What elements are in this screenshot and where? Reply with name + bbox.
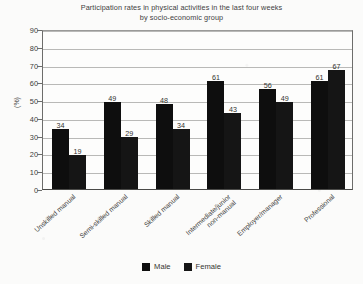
gridline (43, 67, 352, 68)
bar-female (276, 102, 293, 189)
y-axis-tick-label: 80 (14, 44, 38, 53)
gridline (43, 138, 352, 139)
bar-value-label: 48 (152, 96, 177, 105)
bar-male (52, 129, 69, 189)
bar-female (69, 155, 86, 189)
chart-title: Participation rates in physical activiti… (0, 3, 363, 22)
x-axis-category-label-line: Professional (303, 193, 336, 224)
x-axis-category-label: Intermediate/juniornon-manual (185, 193, 238, 243)
legend-label: Male (154, 262, 170, 271)
x-axis-category-label-line: Unskilled manual (33, 193, 77, 233)
plot-area: 341949294834614356496167 (42, 30, 353, 190)
x-axis-category-label-line: Employer/manager (236, 193, 284, 237)
y-axis-tick-mark (37, 190, 42, 191)
bar-value-label: 34 (48, 121, 73, 130)
gridline (43, 31, 352, 32)
bar-male (156, 104, 173, 189)
legend-item: Male (142, 262, 170, 271)
bar-value-label: 67 (324, 62, 349, 71)
gridline (43, 120, 352, 121)
bar-male (104, 102, 121, 189)
bar-value-label: 49 (100, 94, 125, 103)
bar-value-label: 61 (203, 73, 228, 82)
x-axis-category-label: Professional (303, 193, 337, 224)
x-axis-category-label: Unskilled manual (33, 193, 77, 234)
gridline (43, 173, 352, 174)
x-axis-category-label: Semi-skilled manual (78, 193, 129, 240)
chart-legend: MaleFemale (0, 262, 363, 271)
bar-male (207, 81, 224, 189)
chart-title-line-1: Participation rates in physical activiti… (0, 3, 363, 13)
bar-value-label: 43 (220, 105, 245, 114)
y-axis-tick-label: 70 (14, 62, 38, 71)
y-axis-tick-label: 10 (14, 168, 38, 177)
x-axis-category-label: Skilled manual (142, 193, 181, 229)
gridline (43, 102, 352, 103)
bar-value-label: 34 (169, 121, 194, 130)
bar-value-label: 49 (272, 94, 297, 103)
bar-female (121, 137, 138, 189)
bar-male (311, 81, 328, 189)
bar-female (173, 129, 190, 189)
legend-swatch (142, 263, 150, 271)
y-axis-tick-label: 90 (14, 26, 38, 35)
y-axis-tick-label: 40 (14, 115, 38, 124)
y-axis-tick-label: 0 (14, 186, 38, 195)
chart-title-line-2: by socio-economic group (0, 13, 363, 23)
y-axis-tick-label: 20 (14, 150, 38, 159)
bar-male (259, 89, 276, 189)
bar-female (328, 70, 345, 189)
bar-value-label: 56 (255, 81, 280, 90)
legend-swatch (184, 263, 192, 271)
bar-female (224, 113, 241, 189)
y-axis-tick-label: 50 (14, 97, 38, 106)
y-axis-tick-label: 30 (14, 133, 38, 142)
bar-chart: Participation rates in physical activiti… (0, 0, 363, 284)
gridline (43, 49, 352, 50)
bar-value-label: 19 (65, 147, 90, 156)
legend-label: Female (196, 262, 221, 271)
x-axis-category-label-line: Semi-skilled manual (78, 193, 129, 239)
legend-item: Female (184, 262, 221, 271)
y-axis-tick-label: 60 (14, 79, 38, 88)
gridline (43, 84, 352, 85)
x-axis-category-label: Employer/manager (236, 193, 285, 238)
bar-value-label: 29 (117, 129, 142, 138)
x-axis-category-label-line: Skilled manual (142, 193, 180, 228)
